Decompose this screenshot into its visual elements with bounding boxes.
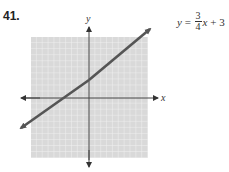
coordinate-plane: x y [0,0,229,172]
y-axis-label: y [85,13,91,24]
x-axis-label: x [160,92,166,103]
